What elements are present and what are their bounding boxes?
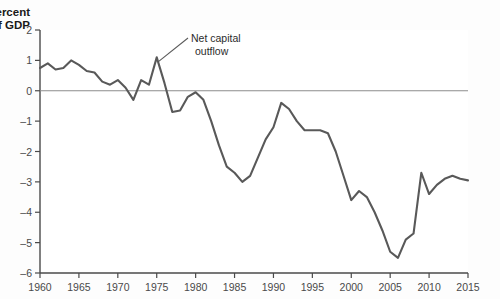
x-tick-label: 1975 — [145, 281, 169, 293]
y-tick-label: –1 — [20, 115, 32, 127]
y-tick-label: –3 — [20, 176, 32, 188]
x-tick-label: 1965 — [67, 281, 91, 293]
x-tick-label: 1985 — [223, 281, 247, 293]
net-capital-outflow-chart: 210–1–2–3–4–5–6 196019651970197519801985… — [0, 0, 500, 299]
x-tick-label: 2010 — [417, 281, 441, 293]
x-tick-label: 1970 — [106, 281, 130, 293]
annotation-label-line2: outflow — [195, 45, 229, 57]
x-tick-label: 1995 — [301, 281, 325, 293]
x-tick-label: 1990 — [262, 281, 286, 293]
chart-figure: 210–1–2–3–4–5–6 196019651970197519801985… — [0, 0, 500, 299]
x-tick-label: 1960 — [28, 281, 52, 293]
x-tick-label: 1980 — [184, 281, 208, 293]
annotation-label-line1: Net capital — [191, 32, 241, 44]
y-tick-label: –2 — [20, 146, 32, 158]
y-axis-title-line1: Percent — [0, 6, 30, 18]
plot-area-background — [40, 30, 468, 273]
y-axis-title-line2: of GDP — [0, 19, 30, 31]
y-tick-label: –4 — [20, 206, 32, 218]
y-tick-label: –5 — [20, 237, 32, 249]
x-tick-label: 2000 — [340, 281, 364, 293]
y-tick-label: 0 — [26, 85, 32, 97]
x-tick-label: 2015 — [456, 281, 480, 293]
x-tick-label: 2005 — [379, 281, 403, 293]
y-tick-label: 1 — [26, 54, 32, 66]
y-tick-label: –6 — [20, 267, 32, 279]
